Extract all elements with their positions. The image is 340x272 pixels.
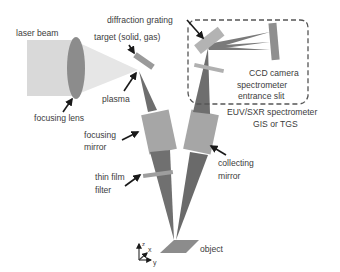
label-collecting-mirror-2: mirror	[218, 171, 240, 181]
beam-focusing-mirror-to-object	[150, 150, 174, 240]
label-axis-x: x	[148, 245, 152, 255]
label-spectrometer: spectrometer	[237, 80, 287, 90]
label-focusing-lens: focusing lens	[34, 113, 84, 123]
label-diffraction-grating: diffraction grating	[107, 15, 173, 25]
label-focusing-mirror-1: focusing	[84, 130, 116, 140]
label-gis-or-tgs: GIS or TGS	[253, 119, 298, 129]
arrow-thin-film-filter	[125, 175, 140, 186]
arrow-plasma	[124, 73, 136, 91]
laser-beam	[27, 40, 73, 96]
focusing-lens	[67, 37, 85, 99]
beam-object-to-collecting-mirror	[176, 152, 208, 240]
target	[133, 52, 154, 70]
entrance-slit	[194, 63, 224, 73]
object-plate	[160, 240, 199, 253]
label-target: target (solid, gas)	[94, 32, 160, 42]
beam-plasma-to-focusing-mirror	[139, 71, 157, 112]
label-entrance-slit: entrance slit	[238, 91, 284, 101]
arrow-collecting-mirror	[211, 146, 226, 155]
label-thin-film-2: filter	[95, 185, 111, 195]
setup-diagram	[0, 0, 340, 272]
arrow-target	[129, 45, 134, 53]
label-focusing-mirror-2: mirror	[84, 142, 106, 152]
label-plasma: plasma	[102, 94, 130, 104]
label-object: object	[200, 244, 223, 254]
label-collecting-mirror-1: collecting	[218, 158, 254, 168]
label-thin-film-1: thin film	[95, 172, 125, 182]
label-axis-y: y	[153, 258, 157, 268]
focusing-mirror	[141, 110, 177, 155]
label-axis-z: z	[142, 239, 145, 249]
label-laser-beam: laser beam	[16, 28, 59, 38]
arrow-focusing-lens	[63, 99, 72, 112]
arrow-diffraction-grating	[187, 20, 203, 38]
ccd-camera	[268, 23, 279, 61]
label-ccd-camera: CCD camera	[249, 68, 299, 78]
label-euv-sxr-spectrometer: EUV/SXR spectrometer	[227, 107, 317, 117]
arrow-focusing-mirror	[122, 132, 138, 140]
